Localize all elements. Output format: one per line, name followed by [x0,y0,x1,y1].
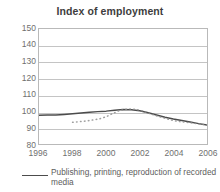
chart-container: Index of employment Publishing, printing… [0,0,220,192]
x-tick-label-2002: 2002 [123,149,157,158]
legend-label-publishing: Publishing, printing, reproduction of re… [48,168,218,187]
chart-title: Index of employment [0,5,220,17]
x-tick-label-2004: 2004 [157,149,191,158]
x-tick-label-2006: 2006 [191,149,220,158]
chart-legend: Publishing, printing, reproduction of re… [22,168,218,187]
y-tick-label-90: 90 [6,124,36,133]
x-tick-label-1998: 1998 [55,149,89,158]
y-tick-label-120: 120 [6,74,36,83]
plot-area [38,28,208,145]
y-tick-label-140: 140 [6,40,36,49]
y-tick-label-150: 150 [6,24,36,33]
x-tick-label-1996: 1996 [21,149,55,158]
series-layer [39,29,207,144]
y-tick-label-110: 110 [6,90,36,99]
legend-line-swatch-icon [22,171,48,180]
series-line-0 [39,110,207,126]
x-tick-label-2000: 2000 [89,149,123,158]
y-tick-label-100: 100 [6,107,36,116]
y-tick-label-130: 130 [6,57,36,66]
